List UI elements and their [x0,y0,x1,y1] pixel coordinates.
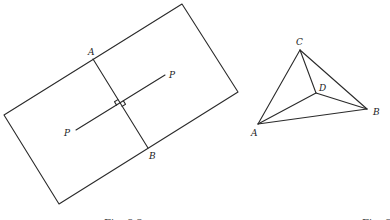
edge-BD [316,93,367,109]
label-P-left: P [63,128,71,138]
figure-tetrahedron: A B C D [250,37,380,138]
edge-BC [300,50,367,109]
label-D: D [318,83,326,93]
label-B-left: B [148,151,156,161]
label-P-right: P [168,70,176,80]
caption-left: Fig. 8.2 [104,217,143,220]
label-B-right: B [372,107,380,117]
label-C: C [296,37,303,47]
edge-AB [258,109,367,124]
diagram-canvas: A B P P A B C D Fig. 8.2 Fig. 8 [0,0,390,220]
label-A-right: A [250,128,258,138]
segment-PP [76,75,165,130]
label-A-left: A [87,47,95,57]
figure-plane-perpendicular: A B P P [4,4,238,204]
caption-right: Fig. 8 [362,217,390,220]
segment-AB [93,59,148,148]
